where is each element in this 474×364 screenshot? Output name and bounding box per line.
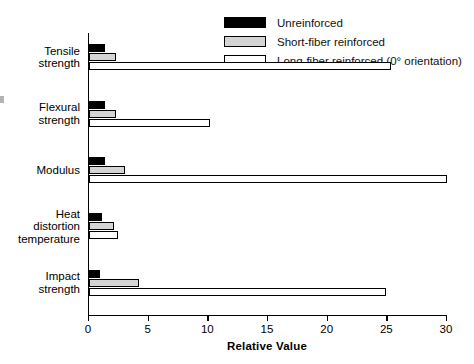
plot-area [88,33,447,316]
bar-1 [89,279,139,287]
bar-2 [89,288,386,296]
bar-group [89,270,447,300]
y-axis-category-labels: TensilestrengthFlexuralstrengthModulusHe… [0,33,84,315]
legend-swatch-unreinforced [224,17,266,28]
x-axis-tick [207,315,208,321]
x-axis-tick [386,315,387,321]
x-axis-tick-label: 5 [144,323,150,335]
bar-1 [89,222,114,230]
x-axis-tick-label: 10 [201,323,214,335]
x-axis-tick [446,315,447,321]
x-axis-tick [148,315,149,321]
bar-1 [89,110,116,118]
bar-0 [89,44,105,52]
y-axis-category-label: Modulus [37,164,80,177]
bar-2 [89,175,447,183]
bar-group [89,157,447,187]
bar-0 [89,270,100,278]
bar-group [89,101,447,131]
y-axis-category-label: Tensilestrength [38,45,80,70]
x-axis-tick-label: 30 [440,323,453,335]
x-axis-tick [88,315,89,321]
bar-1 [89,166,125,174]
bar-0 [89,101,105,109]
x-axis-tick-label: 20 [320,323,333,335]
y-axis-category-label: Heatdistortiontemperature [18,208,80,246]
bar-2 [89,231,118,239]
legend-item-unreinforced: Unreinforced [224,14,470,31]
y-axis-category-label: Impactstrength [38,270,80,295]
x-axis-tick-label: 25 [380,323,393,335]
x-axis: Relative Value 051015202530 [88,315,446,355]
x-axis-tick-label: 15 [261,323,274,335]
bar-2 [89,62,391,70]
bar-group [89,213,447,243]
bar-group [89,44,447,74]
scan-edge-artifact [0,96,4,103]
x-axis-tick [327,315,328,321]
bar-0 [89,213,102,221]
bar-1 [89,53,116,61]
legend-label-unreinforced: Unreinforced [277,17,343,29]
chart-figure: Unreinforced Short-fiber reinforced Long… [0,0,474,364]
x-axis-tick-label: 0 [85,323,91,335]
y-axis-category-label: Flexuralstrength [38,101,80,126]
bar-2 [89,119,210,127]
x-axis-tick [267,315,268,321]
bar-0 [89,157,105,165]
x-axis-title: Relative Value [88,340,446,352]
